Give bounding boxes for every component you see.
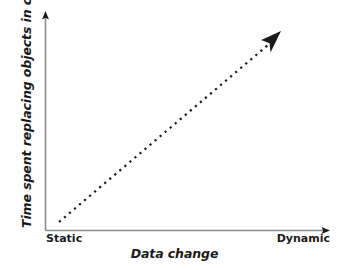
- x-tick-label-dynamic: Dynamic: [0, 233, 330, 244]
- chart-plot-area: [0, 0, 349, 270]
- x-axis-title: Data change: [0, 248, 349, 261]
- trend-arrowhead: [261, 31, 281, 53]
- chart-figure: Time spent replacing objects in cache Da…: [0, 0, 349, 270]
- y-axis-label: Time spent replacing objects in cache: [21, 12, 37, 228]
- trend-line-dotted: [59, 45, 268, 222]
